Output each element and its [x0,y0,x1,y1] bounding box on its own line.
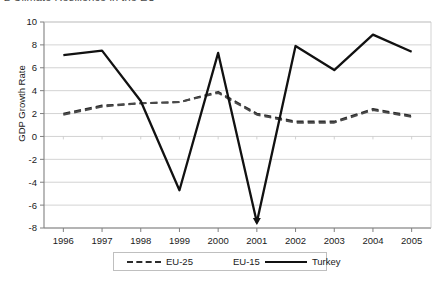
x-axis-tick-labels: 1996199719981999200020012002200320042005 [53,235,422,246]
x-axis-tick-label: 2002 [285,235,306,246]
chart-plot-area: -8-6-4-20246810 199619971998199920002001… [0,0,440,284]
y-axis-tick-label: 2 [32,108,37,119]
y-axis-tick-label: -8 [29,222,37,233]
x-axis-tick-label: 2005 [401,235,422,246]
legend-swatch-solid-icon [265,261,307,263]
chart-legend: EU-25 EU-15 Turkey [113,252,327,271]
y-axis-tick-label: 8 [32,39,37,50]
x-axis-ticks [63,136,411,232]
legend-swatch-dashed-icon [127,261,161,263]
gridlines [44,22,431,228]
y-axis-tick-label: 4 [32,85,37,96]
series-line [63,93,411,123]
series-line [63,92,411,122]
x-axis-tick-label: 2000 [208,235,229,246]
y-axis-tick-label: 10 [26,16,37,27]
y-axis-tick-label: -4 [29,177,37,188]
pointer-marker [253,218,261,225]
x-axis-tick-label: 1996 [53,235,74,246]
legend-label: EU-25 [166,256,193,267]
x-axis-tick-label: 1997 [91,235,112,246]
caret-down-icon [253,218,261,225]
y-axis-ticks: -8-6-4-20246810 [26,16,44,233]
axis-lines [44,22,431,228]
y-axis-tick-label: -2 [29,154,37,165]
x-axis-tick-label: 2004 [362,235,383,246]
x-axis-tick-label: 1999 [169,235,190,246]
x-axis-tick-label: 2001 [246,235,267,246]
x-axis-tick-label: 1998 [130,235,151,246]
legend-label: Turkey [312,256,341,267]
legend-item-eu15[interactable]: EU-15 [233,256,260,267]
data-series [63,35,411,223]
y-axis-tick-label: 0 [32,131,37,142]
x-axis-tick-label: 2003 [324,235,345,246]
legend-label: EU-15 [233,256,260,267]
series-line [63,35,411,223]
legend-item-turkey[interactable]: Turkey [260,256,341,267]
legend-item-eu25[interactable]: EU-25 [122,256,193,267]
y-axis-tick-label: -6 [29,200,37,211]
y-axis-tick-label: 6 [32,62,37,73]
chart-figure: 2 Climate Resilience in the EU GDP Growt… [0,0,440,284]
